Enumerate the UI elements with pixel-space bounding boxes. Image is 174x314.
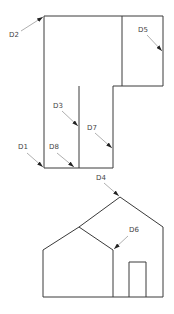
inner-gable-line xyxy=(79,227,113,250)
floor-plan xyxy=(44,16,163,168)
house-outline xyxy=(43,197,163,297)
callout-d7: D7 xyxy=(87,124,112,148)
callout-d3: D3 xyxy=(53,102,78,126)
leader-arrow-icon xyxy=(95,133,112,148)
house-elevation xyxy=(43,197,163,297)
diagram-canvas: D1D2D3D4D5D6D7D8 xyxy=(0,0,174,314)
leader-arrow-icon xyxy=(114,236,128,249)
callout-d5: D5 xyxy=(138,26,162,51)
door xyxy=(129,262,146,297)
callout-d4: D4 xyxy=(96,174,119,196)
callout-label: D4 xyxy=(96,174,106,182)
callout-d2: D2 xyxy=(9,17,43,39)
callout-d6: D6 xyxy=(114,226,139,249)
leader-arrow-icon xyxy=(147,35,162,51)
callout-label: D2 xyxy=(9,31,19,39)
callout-label: D8 xyxy=(49,143,59,151)
callout-label: D7 xyxy=(87,124,97,132)
callout-label: D6 xyxy=(129,226,139,234)
leader-arrow-icon xyxy=(27,153,43,167)
floor-plan-outline xyxy=(44,16,163,168)
leader-arrow-icon xyxy=(62,111,78,126)
callout-label: D1 xyxy=(18,143,28,151)
callout-label: D5 xyxy=(138,26,148,34)
callout-labels: D1D2D3D4D5D6D7D8 xyxy=(9,17,162,249)
leader-arrow-icon xyxy=(104,183,119,196)
leader-arrow-icon xyxy=(57,153,74,167)
leader-arrow-icon xyxy=(21,17,43,31)
callout-d1: D1 xyxy=(18,143,43,167)
callout-label: D3 xyxy=(53,102,63,110)
callout-d8: D8 xyxy=(49,143,74,167)
